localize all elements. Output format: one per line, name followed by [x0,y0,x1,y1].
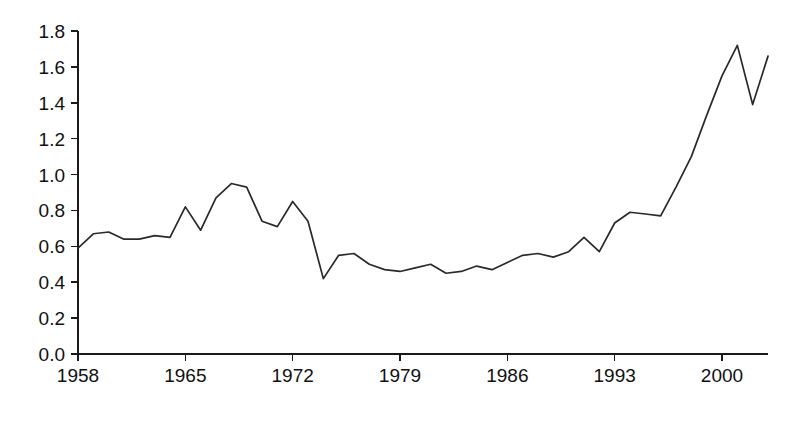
chart-canvas: 0.00.20.40.60.81.01.21.41.61.8 195819651… [0,0,800,430]
data-line [78,45,768,278]
year-axis-tick-label: 1979 [379,365,421,386]
year-axis-tick-label: 1993 [594,365,636,386]
year-axis-tick-label: 2000 [701,365,743,386]
value-axis-tick-label: 0.6 [39,236,65,257]
value-axis-tick-label: 0.0 [39,344,65,365]
value-axis-tick-label: 1.0 [39,165,65,186]
line-chart: 0.00.20.40.60.81.01.21.41.61.8 195819651… [0,0,800,430]
year-axis: 1958196519721979198619932000 [57,354,768,386]
value-axis: 0.00.20.40.60.81.01.21.41.61.8 [39,21,78,365]
year-axis-tick-label: 1958 [57,365,99,386]
data-series-group [78,45,768,278]
value-axis-tick-label: 1.6 [39,57,65,78]
year-axis-tick-label: 1965 [164,365,206,386]
value-axis-tick-label: 0.2 [39,308,65,329]
value-axis-tick-label: 0.8 [39,200,65,221]
value-axis-tick-label: 1.4 [39,93,66,114]
year-axis-tick-label: 1972 [272,365,314,386]
value-axis-tick-label: 1.8 [39,21,65,42]
value-axis-tick-label: 0.4 [39,272,66,293]
year-axis-tick-label: 1986 [486,365,528,386]
value-axis-tick-label: 1.2 [39,129,65,150]
